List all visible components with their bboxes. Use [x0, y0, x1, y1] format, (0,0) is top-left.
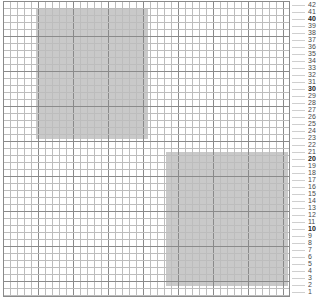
upper-left-block [36, 9, 148, 139]
gridline-horizontal-major [3, 141, 290, 142]
row-tick [292, 264, 305, 265]
row-tick [292, 222, 305, 223]
gridline-vertical-minor [17, 1, 18, 297]
row-tick [292, 138, 305, 139]
row-number-label: 40 [308, 15, 330, 22]
row-tick [292, 33, 305, 34]
row-tick [292, 166, 305, 167]
row-number-label: 6 [308, 253, 330, 260]
row-tick [292, 124, 305, 125]
row-number-label: 20 [308, 155, 330, 162]
row-tick [292, 215, 305, 216]
row-tick [292, 285, 305, 286]
row-number-label: 28 [308, 99, 330, 106]
row-number-label: 10 [308, 225, 330, 232]
row-number-label: 1 [308, 288, 330, 295]
row-tick [292, 47, 305, 48]
row-tick [292, 159, 305, 160]
gridline-horizontal-minor [3, 295, 290, 296]
row-tick [292, 75, 305, 76]
row-tick [292, 117, 305, 118]
row-tick [292, 208, 305, 209]
row-number-gutter: 4241403938373635343332313029282726252423… [292, 0, 331, 307]
row-tick [292, 180, 305, 181]
row-tick [292, 278, 305, 279]
row-number-label: 37 [308, 36, 330, 43]
row-number-label: 30 [308, 85, 330, 92]
grid-chart-root: 4241403938373635343332313029282726252423… [0, 0, 331, 307]
row-tick [292, 250, 305, 251]
gridline-vertical-minor [164, 1, 165, 297]
row-tick [292, 82, 305, 83]
gridline-vertical-minor [24, 1, 25, 297]
row-number-label: 42 [308, 1, 330, 8]
row-number-label: 33 [308, 64, 330, 71]
row-tick [292, 12, 305, 13]
gridline-vertical-minor [10, 1, 11, 297]
row-tick [292, 19, 305, 20]
row-number-label: 19 [308, 162, 330, 169]
row-tick [292, 257, 305, 258]
row-number-label: 7 [308, 246, 330, 253]
row-number-label: 22 [308, 141, 330, 148]
row-number-label: 4 [308, 267, 330, 274]
gridline-horizontal-minor [3, 148, 290, 149]
row-number-label: 17 [308, 176, 330, 183]
row-number-label: 31 [308, 78, 330, 85]
row-tick [292, 40, 305, 41]
row-tick [292, 110, 305, 111]
row-number-label: 32 [308, 71, 330, 78]
row-number-label: 5 [308, 260, 330, 267]
row-tick [292, 236, 305, 237]
grid-plot-area[interactable] [3, 1, 290, 297]
row-tick [292, 173, 305, 174]
row-tick [292, 201, 305, 202]
row-tick [292, 131, 305, 132]
gridline-vertical-major [3, 1, 4, 297]
gridline-vertical-minor [150, 1, 151, 297]
row-tick [292, 61, 305, 62]
row-number-label: 12 [308, 211, 330, 218]
row-number-label: 14 [308, 197, 330, 204]
row-number-label: 13 [308, 204, 330, 211]
row-number-label: 38 [308, 29, 330, 36]
row-number-label: 35 [308, 50, 330, 57]
gridline-vertical-minor [31, 1, 32, 297]
row-tick [292, 271, 305, 272]
row-tick [292, 26, 305, 27]
row-tick [292, 187, 305, 188]
row-number-label: 36 [308, 43, 330, 50]
row-tick [292, 243, 305, 244]
lower-right-block [166, 152, 288, 286]
row-tick [292, 54, 305, 55]
row-number-label: 11 [308, 218, 330, 225]
row-tick [292, 145, 305, 146]
row-number-label: 39 [308, 22, 330, 29]
row-number-label: 21 [308, 148, 330, 155]
row-tick [292, 103, 305, 104]
row-tick [292, 292, 305, 293]
row-tick [292, 5, 305, 6]
row-tick [292, 89, 305, 90]
row-number-label: 34 [308, 57, 330, 64]
row-number-label: 18 [308, 169, 330, 176]
row-number-label: 15 [308, 190, 330, 197]
row-tick [292, 152, 305, 153]
gridline-horizontal-major [3, 1, 290, 2]
row-tick [292, 194, 305, 195]
row-number-label: 41 [308, 8, 330, 15]
gridline-horizontal-minor [3, 288, 290, 289]
row-number-label: 3 [308, 274, 330, 281]
row-number-label: 29 [308, 92, 330, 99]
row-tick [292, 96, 305, 97]
row-number-label: 8 [308, 239, 330, 246]
row-number-label: 26 [308, 113, 330, 120]
gridline-vertical-minor [157, 1, 158, 297]
row-number-label: 25 [308, 120, 330, 127]
row-number-label: 24 [308, 127, 330, 134]
row-number-label: 2 [308, 281, 330, 288]
row-tick [292, 68, 305, 69]
row-number-label: 23 [308, 134, 330, 141]
row-number-label: 27 [308, 106, 330, 113]
row-number-label: 16 [308, 183, 330, 190]
